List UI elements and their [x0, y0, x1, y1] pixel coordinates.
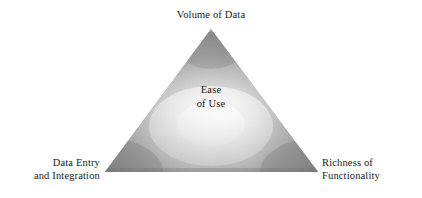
vertex-label-bottom-left: Data Entry and Integration — [8, 156, 100, 182]
vertex-label-bottom-right-line1: Richness of — [322, 156, 418, 169]
center-label-line1: Ease — [161, 83, 261, 97]
vertex-label-top: Volume of Data — [0, 8, 422, 21]
center-label-line2: of Use — [161, 97, 261, 111]
vertex-label-bottom-left-line1: Data Entry — [8, 156, 100, 169]
vertex-label-bottom-right-line2: Functionality — [322, 169, 418, 182]
triangle-diagram: Volume of Data Data Entry and Integratio… — [0, 0, 422, 198]
vertex-label-bottom-left-line2: and Integration — [8, 169, 100, 182]
vertex-label-top-text: Volume of Data — [0, 8, 422, 21]
vertex-label-bottom-right: Richness of Functionality — [322, 156, 418, 182]
triangle-base-edge-shade — [100, 168, 324, 173]
center-label: Ease of Use — [161, 83, 261, 111]
